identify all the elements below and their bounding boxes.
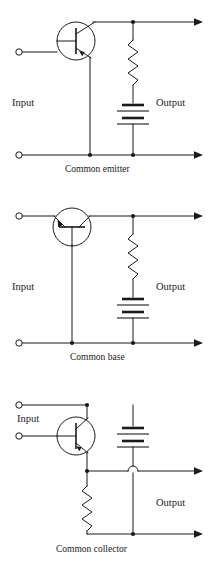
input-terminal-bottom[interactable]: [16, 152, 22, 158]
resistor-zigzag: [128, 40, 138, 85]
wire-hop-icon: [128, 466, 138, 471]
circuit-caption: Common base: [70, 352, 125, 362]
output-label: Output: [156, 281, 185, 292]
output-label: Output: [156, 497, 185, 508]
input-label: Input: [17, 413, 39, 424]
circuit-common-base: Input Output Common base: [0, 187, 215, 374]
circuit-caption: Common collector: [56, 544, 128, 554]
resistor-zigzag: [82, 486, 92, 531]
transistor-collector-lead: [76, 418, 88, 429]
output-top-arrow: [194, 467, 203, 475]
output-top-arrow: [194, 212, 203, 220]
junction-dot: [131, 20, 135, 24]
transistor-collector-lead: [79, 216, 90, 227]
input-terminal-bottom[interactable]: [16, 340, 22, 346]
output-top-arrow: [194, 18, 203, 26]
figure-sheet: Input Output Common emitter: [0, 0, 215, 562]
junction-dot: [131, 532, 135, 536]
input-label: Input: [12, 281, 34, 292]
input-terminal-top[interactable]: [16, 49, 22, 55]
circuit-common-emitter: Input Output Common emitter: [0, 0, 215, 187]
output-bottom-arrow: [194, 530, 203, 538]
circuit-caption: Common emitter: [65, 164, 130, 174]
circuit-common-collector: Input Output Common collector: [0, 374, 215, 562]
input-label: Input: [12, 97, 34, 108]
output-bottom-arrow: [194, 339, 203, 347]
input-terminal-top[interactable]: [16, 213, 22, 219]
junction-dot: [88, 153, 92, 157]
junction-dot: [131, 153, 135, 157]
junction-dot: [131, 341, 135, 345]
junction-dot: [70, 341, 74, 345]
junction-dot: [131, 214, 135, 218]
junction-dot: [85, 403, 89, 407]
input-terminal-top[interactable]: [16, 402, 22, 408]
output-bottom-arrow: [194, 151, 203, 159]
junction-dot: [85, 469, 89, 473]
input-terminal-bottom[interactable]: [16, 433, 22, 439]
resistor-zigzag: [128, 234, 138, 279]
output-label: Output: [156, 97, 185, 108]
transistor-collector-lead: [76, 22, 95, 34]
